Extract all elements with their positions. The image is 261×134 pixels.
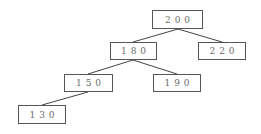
node-label: 200 — [165, 15, 194, 25]
tree-node-190: 190 — [153, 74, 201, 92]
edge-150-130 — [42, 92, 88, 105]
node-label: 220 — [209, 46, 238, 56]
tree-node-130: 130 — [18, 105, 66, 124]
node-label: 150 — [76, 78, 105, 88]
node-label: 130 — [29, 110, 58, 120]
tree-node-220: 220 — [198, 42, 246, 60]
node-label: 180 — [121, 46, 150, 56]
tree-diagram: 200 180 220 150 190 130 — [0, 0, 261, 134]
edge-200-220 — [178, 29, 222, 42]
edge-200-180 — [133, 29, 178, 42]
edge-180-190 — [133, 60, 177, 74]
edge-180-150 — [88, 60, 133, 74]
tree-node-150: 150 — [64, 74, 113, 92]
tree-node-200: 200 — [152, 10, 203, 29]
tree-node-180: 180 — [110, 42, 157, 60]
node-label: 190 — [164, 78, 193, 88]
